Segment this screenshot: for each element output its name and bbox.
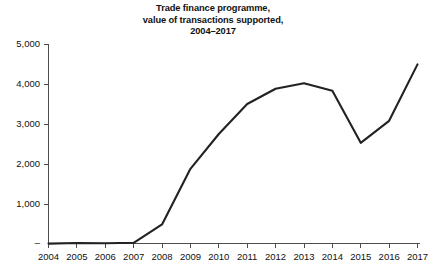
x-axis-label-2009: 2009 bbox=[176, 252, 206, 262]
x-axis-label-2014: 2014 bbox=[317, 252, 347, 262]
y-tick-marks bbox=[44, 45, 49, 205]
x-axis-label-2011: 2011 bbox=[232, 252, 262, 262]
x-axis-label-2006: 2006 bbox=[90, 252, 120, 262]
x-axis-label-2015: 2015 bbox=[346, 252, 376, 262]
y-axis-label-4000: 4,000 bbox=[0, 79, 40, 89]
x-axis-label-2016: 2016 bbox=[374, 252, 404, 262]
x-axis-label-2005: 2005 bbox=[62, 252, 92, 262]
x-axis-label-2004: 2004 bbox=[34, 252, 64, 262]
x-axis-label-2007: 2007 bbox=[119, 252, 149, 262]
x-tick-marks bbox=[49, 244, 418, 248]
series-line-trade-finance bbox=[49, 64, 418, 243]
x-axis-label-2010: 2010 bbox=[204, 252, 234, 262]
x-axis-label-2017: 2017 bbox=[403, 252, 433, 262]
y-axis-label-0: – bbox=[0, 238, 40, 248]
y-axis-label-2000: 2,000 bbox=[0, 159, 40, 169]
x-axis-label-2013: 2013 bbox=[289, 252, 319, 262]
x-axis-label-2008: 2008 bbox=[147, 252, 177, 262]
y-axis-label-1000: 1,000 bbox=[0, 199, 40, 209]
x-axis-label-2012: 2012 bbox=[261, 252, 291, 262]
y-axis-label-3000: 3,000 bbox=[0, 119, 40, 129]
y-axis-label-5000: 5,000 bbox=[0, 39, 40, 49]
